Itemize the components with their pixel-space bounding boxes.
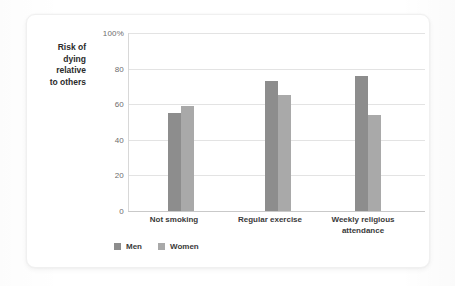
x-label-not-smoking-line-1: Not smoking — [133, 215, 215, 226]
bar-men-not-smoking[interactable] — [168, 113, 181, 211]
bar-women-weekly-religious-attendance[interactable] — [368, 115, 381, 211]
bar-women-regular-exercise[interactable] — [278, 95, 291, 211]
legend-label-women: Women — [170, 242, 199, 251]
x-axis-line — [128, 211, 425, 212]
y-axis-title: Risk of dying relative to others — [22, 42, 86, 88]
bar-group-not-smoking — [168, 33, 194, 211]
y-tick-label-0: 0 — [119, 207, 124, 216]
legend-item-women[interactable]: Women — [158, 242, 199, 251]
x-label-not-smoking: Not smoking — [133, 215, 215, 226]
legend-swatch-women-icon — [158, 243, 165, 250]
y-tick-label-60: 60 — [115, 100, 124, 109]
legend-swatch-men-icon — [114, 243, 121, 250]
legend: Men Women — [114, 242, 199, 251]
bar-men-weekly-religious-attendance[interactable] — [355, 76, 368, 211]
x-label-weekly-religious-attendance-line-1: Weekly religious — [316, 215, 410, 226]
bar-chart: Risk of dying relative to others 100% 80… — [0, 0, 455, 286]
y-axis-title-line-4: to others — [22, 77, 86, 89]
y-axis-title-line-3: relative — [22, 65, 86, 77]
y-tick-label-40: 40 — [115, 135, 124, 144]
y-axis-title-line-1: Risk of — [22, 42, 86, 54]
bar-men-regular-exercise[interactable] — [265, 81, 278, 211]
y-axis-title-line-2: dying — [22, 54, 86, 66]
x-label-regular-exercise: Regular exercise — [225, 215, 315, 226]
y-axis-ticks: 100% 80 60 40 20 0 — [88, 33, 124, 211]
bar-group-regular-exercise — [265, 33, 291, 211]
x-label-weekly-religious-attendance-line-2: attendance — [316, 226, 410, 237]
bar-women-not-smoking[interactable] — [181, 106, 194, 211]
bar-group-weekly-religious-attendance — [355, 33, 381, 211]
x-label-weekly-religious-attendance: Weekly religious attendance — [316, 215, 410, 236]
x-label-regular-exercise-line-1: Regular exercise — [225, 215, 315, 226]
y-tick-label-20: 20 — [115, 171, 124, 180]
y-axis-line — [128, 33, 129, 211]
legend-item-men[interactable]: Men — [114, 242, 142, 251]
legend-label-men: Men — [126, 242, 142, 251]
plot-area — [128, 33, 425, 211]
y-tick-label-80: 80 — [115, 64, 124, 73]
y-tick-label-100: 100% — [103, 29, 124, 38]
